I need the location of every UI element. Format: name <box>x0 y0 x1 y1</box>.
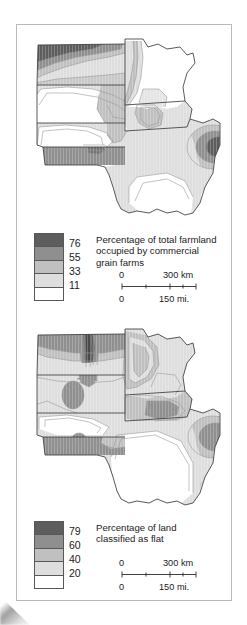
legend-break-values: 76 55 33 11 <box>69 233 93 301</box>
map-canvas-land-classified-as-flat <box>17 317 233 517</box>
scale-mi-max: 150 mi. <box>159 293 189 305</box>
legend-caption-line-1: classified as flat <box>96 533 228 544</box>
legend-caption-line-1: occupied by commercial <box>96 245 228 256</box>
legend-swatch-4 <box>35 288 63 300</box>
legend-swatch-column <box>34 233 64 301</box>
legend-break-values: 79 60 40 20 <box>69 521 93 589</box>
legend-break-2: 40 <box>69 554 93 565</box>
legend-caption: Percentage of land classified as flat <box>96 522 228 545</box>
scale-km-zero: 0 <box>119 557 124 569</box>
scale-mi-max: 150 mi. <box>159 581 189 593</box>
legend-swatch-0 <box>35 234 63 247</box>
legend-break-0: 76 <box>69 238 93 249</box>
scale-row-mi: 0 150 mi. <box>119 581 229 593</box>
legend-land-classified-as-flat: 79 60 40 20 Percentage of land classifie… <box>17 517 233 597</box>
map-panel-commercial-grain-farms: 76 55 33 11 Percentage of total farmland… <box>17 27 233 315</box>
scale-bar: 0 300 km <box>119 557 229 593</box>
scale-mi-zero: 0 <box>119 293 124 305</box>
figure-frame: 76 55 33 11 Percentage of total farmland… <box>16 24 232 601</box>
scale-bar: 0 300 km <box>119 269 229 305</box>
map-canvas-commercial-grain-farms <box>17 27 233 227</box>
scale-ruler-graphic <box>121 570 197 579</box>
legend-swatch-1 <box>35 535 63 548</box>
map-panel-land-classified-as-flat: 79 60 40 20 Percentage of land classifie… <box>17 317 233 602</box>
legend-caption-line-0: Percentage of total farmland <box>96 234 228 245</box>
legend-caption-line-2: grain farms <box>96 257 228 268</box>
legend-swatch-1 <box>35 247 63 260</box>
legend-swatch-2 <box>35 549 63 562</box>
legend-swatch-column <box>34 521 64 589</box>
legend-commercial-grain-farms: 76 55 33 11 Percentage of total farmland… <box>17 229 233 309</box>
legend-swatch-3 <box>35 562 63 575</box>
scale-row-km: 0 300 km <box>119 557 229 569</box>
legend-break-1: 60 <box>69 540 93 551</box>
legend-swatch-2 <box>35 261 63 274</box>
legend-swatch-3 <box>35 274 63 287</box>
legend-swatch-0 <box>35 522 63 535</box>
scale-km-zero: 0 <box>119 269 124 281</box>
legend-break-1: 55 <box>69 252 93 263</box>
scale-km-max: 300 km <box>163 557 193 569</box>
two-map-figure: 76 55 33 11 Percentage of total farmland… <box>17 25 231 600</box>
legend-caption-line-0: Percentage of land <box>96 522 228 533</box>
legend-break-2: 33 <box>69 266 93 277</box>
scale-km-max: 300 km <box>163 269 193 281</box>
scale-row-km: 0 300 km <box>119 269 229 281</box>
legend-swatch-4 <box>35 576 63 588</box>
scale-ruler-graphic <box>121 282 197 291</box>
legend-caption: Percentage of total farmland occupied by… <box>96 234 228 268</box>
scale-row-mi: 0 150 mi. <box>119 293 229 305</box>
legend-break-0: 79 <box>69 526 93 537</box>
legend-break-3: 20 <box>69 568 93 579</box>
legend-break-3: 11 <box>69 280 93 291</box>
scale-mi-zero: 0 <box>119 581 124 593</box>
